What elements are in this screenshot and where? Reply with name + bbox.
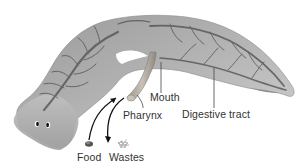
wastes-label: Wastes: [109, 152, 144, 163]
food-label: Food: [77, 152, 101, 163]
planarian-illustration: [0, 0, 308, 166]
wastes-particles-icon: [118, 140, 128, 148]
wastes-arrow: [105, 98, 124, 143]
digestive-tract-label: Digestive tract: [182, 109, 250, 120]
pharynx-leader-line: [137, 95, 143, 108]
planarian-diagram: Mouth Pharynx Digestive tract Food Waste…: [0, 0, 308, 166]
pharynx-tip: [127, 95, 135, 101]
mouth-label: Mouth: [150, 92, 180, 103]
pharynx-label: Pharynx: [123, 110, 162, 121]
